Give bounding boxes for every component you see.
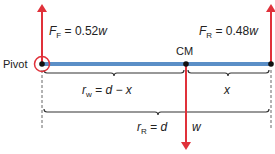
pivot-dot	[39, 61, 45, 67]
brace-rw	[44, 70, 184, 76]
brace-rw-label: rw = d − x	[82, 83, 133, 99]
brace-rR-label: rR = d	[137, 120, 167, 136]
right-end-dot	[268, 61, 274, 67]
cm-label: CM	[176, 45, 193, 57]
brace-x	[188, 70, 269, 76]
cm-dot	[183, 61, 189, 67]
pivot-label: Pivot	[3, 58, 27, 70]
brace-rR	[44, 109, 269, 115]
beam-diagram: Pivot CM FF = 0.52w FR = 0.48w rw = d − …	[0, 0, 275, 154]
brace-x-label: x	[223, 83, 231, 97]
weight-label: w	[192, 120, 202, 134]
force-left-label: FF = 0.52w	[49, 24, 108, 40]
force-right-label: FR = 0.48w	[199, 24, 259, 40]
